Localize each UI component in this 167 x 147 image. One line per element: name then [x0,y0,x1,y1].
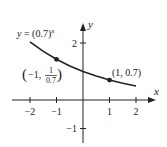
x-tick-label: −1 [51,106,62,117]
x-axis-label: x [153,85,159,97]
x-tick-label: −2 [25,106,36,117]
y-axis-arrow-icon [80,23,86,31]
function-label: y = (0.7)x [16,27,55,40]
chart-canvas: −2 −1 1 2 2 −1 x y y = (0.7)x ( −1, 1 0.… [0,0,167,147]
y-tick-label: −1 [66,123,77,134]
annotation-neg1: ( −1, 1 0.7 ) [22,66,62,85]
x-axis-arrow-icon [148,97,156,103]
frac-numerator: 1 [49,66,53,75]
y-tick-label: 2 [72,38,77,49]
open-paren: ( [22,66,27,83]
y-axis-label: y [87,18,93,30]
annotation-1: (1, 0.7) [112,67,141,79]
close-paren: ) [57,66,62,83]
frac-denominator: 0.7 [46,76,56,85]
x-tick-label: 1 [107,106,112,117]
annotation-neg1-prefix: −1, [28,69,41,80]
x-tick-label: 2 [134,106,139,117]
point-neg1 [54,57,59,62]
point-1 [107,78,112,83]
